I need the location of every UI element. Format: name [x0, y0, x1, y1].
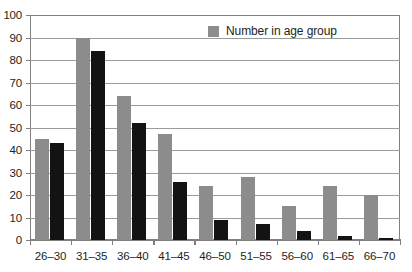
- bar: [364, 195, 378, 240]
- y-axis-label: 30: [0, 167, 22, 179]
- x-tick-mark: [194, 240, 195, 245]
- y-axis-label: 60: [0, 99, 22, 111]
- chart-legend: Number in age group: [208, 24, 337, 38]
- bar-group: [359, 15, 400, 240]
- x-tick-mark: [318, 240, 319, 245]
- bar: [297, 231, 311, 240]
- bar: [117, 96, 131, 240]
- bar-group: [194, 15, 235, 240]
- bar: [379, 238, 393, 240]
- bar-group: [71, 15, 112, 240]
- legend-label: Number in age group: [226, 24, 337, 38]
- bar: [323, 186, 337, 240]
- y-axis-label: 70: [0, 77, 22, 89]
- bar: [256, 224, 270, 240]
- x-tick-mark: [112, 240, 113, 245]
- y-axis-label: 10: [0, 212, 22, 224]
- x-axis-label: 56–60: [281, 250, 312, 262]
- x-tick-mark: [71, 240, 72, 245]
- x-axis-label: 26–30: [35, 250, 66, 262]
- bar: [338, 236, 352, 241]
- x-axis-label: 41–45: [158, 250, 189, 262]
- x-axis-label: 46–50: [199, 250, 230, 262]
- bar: [214, 220, 228, 240]
- y-axis-label: 20: [0, 189, 22, 201]
- caption-remnant: [4, 265, 304, 271]
- bar: [241, 177, 255, 240]
- y-axis-label: 90: [0, 32, 22, 44]
- bar-group: [30, 15, 71, 240]
- bar-group: [277, 15, 318, 240]
- x-axis-label: 36–40: [117, 250, 148, 262]
- bar: [50, 143, 64, 240]
- bar-group: [153, 15, 194, 240]
- x-axis-label: 31–35: [76, 250, 107, 262]
- y-axis-label: 0: [0, 234, 22, 246]
- x-tick-mark: [277, 240, 278, 245]
- bar: [91, 51, 105, 240]
- bar-group: [318, 15, 359, 240]
- bar-chart: 0102030405060708090100 26–3031–3536–4041…: [0, 0, 412, 272]
- bar: [173, 182, 187, 241]
- bar: [76, 38, 90, 241]
- x-axis-label: 51–55: [240, 250, 271, 262]
- y-axis-label: 80: [0, 54, 22, 66]
- x-tick-mark: [153, 240, 154, 245]
- x-axis-label: 61–65: [323, 250, 354, 262]
- x-tick-mark: [359, 240, 360, 245]
- bar-group: [112, 15, 153, 240]
- bar: [282, 206, 296, 240]
- bar: [132, 123, 146, 240]
- x-axis-label: 66–70: [364, 250, 395, 262]
- y-axis-label: 40: [0, 144, 22, 156]
- bar: [35, 139, 49, 240]
- bar: [199, 186, 213, 240]
- legend-swatch-icon: [208, 26, 219, 37]
- x-tick-mark: [400, 240, 401, 245]
- bars-layer: [30, 15, 400, 240]
- x-tick-mark: [30, 240, 31, 245]
- bar-group: [236, 15, 277, 240]
- y-axis-label: 50: [0, 122, 22, 134]
- bar: [158, 134, 172, 240]
- x-tick-mark: [236, 240, 237, 245]
- y-axis-label: 100: [0, 9, 22, 21]
